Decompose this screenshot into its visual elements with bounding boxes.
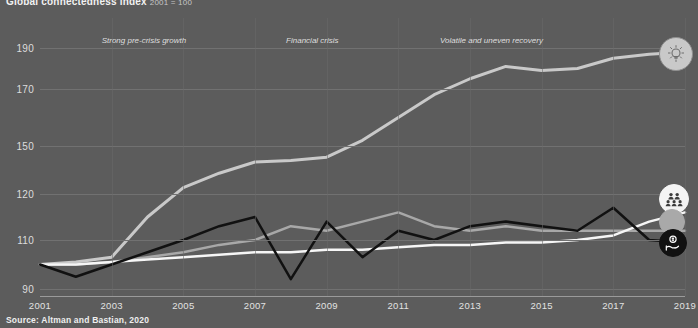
annotation-3: Volatile and uneven recovery [440, 36, 543, 45]
annotation-1: Strong pre-crisis growth [102, 36, 186, 45]
series-layer [40, 18, 685, 296]
x-tick-label-2005: 2005 [172, 300, 194, 311]
gridline-x-2005 [183, 18, 184, 296]
source-note: Source: Altman and Bastian, 2020 [6, 315, 149, 325]
gridline-x-2009 [327, 18, 328, 296]
series-line-information [40, 52, 685, 264]
x-tick-label-2011: 2011 [388, 300, 410, 311]
y-tick-label-90: 90 [22, 284, 34, 295]
gridline-y-110 [40, 240, 685, 241]
y-tick-label-110: 110 [17, 235, 34, 246]
gridline-y-90 [40, 289, 685, 290]
series-line-capital [40, 208, 685, 279]
y-tick-label-170: 170 [16, 84, 34, 95]
y-axis: 19017015012011090 [0, 18, 34, 296]
y-tick-label-120: 120 [16, 189, 34, 200]
gridline-x-2013 [470, 18, 471, 296]
chart-root: Global connectedness index 2001 = 100 19… [0, 0, 698, 328]
gridline-y-170 [40, 89, 685, 90]
x-tick-label-2019: 2019 [674, 300, 696, 311]
x-tick-label-2003: 2003 [100, 300, 122, 311]
x-axis: 2001200320052007200920112013201520172019 [40, 300, 685, 314]
gridline-x-2015 [542, 18, 543, 296]
gridline-x-2007 [255, 18, 256, 296]
y-tick-label-190: 190 [16, 43, 34, 54]
gridline-y-190 [40, 48, 685, 49]
y-tick-label-150: 150 [16, 141, 34, 152]
gridline-y-120 [40, 194, 685, 195]
annotation-2: Financial crisis [286, 36, 338, 45]
x-tick-label-2017: 2017 [602, 300, 624, 311]
information-icon[interactable] [659, 37, 693, 71]
x-tick-label-2007: 2007 [244, 300, 266, 311]
gridline-x-2017 [613, 18, 614, 296]
x-axis-line [40, 296, 685, 297]
x-tick-label-2001: 2001 [29, 300, 51, 311]
x-tick-label-2015: 2015 [530, 300, 552, 311]
chart-title-main: Global connectedness index [6, 0, 147, 7]
gridline-x-2011 [398, 18, 399, 296]
chart-title-sub: 2001 = 100 [150, 0, 192, 7]
plot-area [40, 18, 685, 296]
x-tick-label-2013: 2013 [459, 300, 481, 311]
x-tick-label-2009: 2009 [315, 300, 337, 311]
gridline-y-150 [40, 146, 685, 147]
capital-icon[interactable] [659, 229, 687, 257]
gridline-x-2003 [112, 18, 113, 296]
chart-title: Global connectedness index 2001 = 100 [6, 0, 192, 7]
